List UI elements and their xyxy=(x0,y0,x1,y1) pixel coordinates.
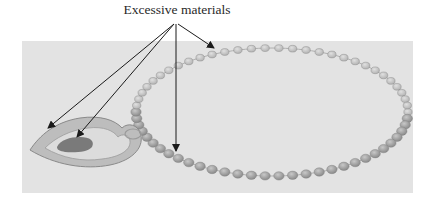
bead xyxy=(246,171,256,179)
bead xyxy=(339,162,349,170)
bead xyxy=(401,96,409,103)
bead xyxy=(260,172,270,180)
bead xyxy=(174,62,182,69)
bead xyxy=(398,89,406,96)
bead xyxy=(149,78,157,85)
bead xyxy=(393,83,401,90)
annotation-label: Excessive materials xyxy=(112,2,242,18)
bead xyxy=(370,150,380,158)
bead xyxy=(184,158,194,166)
bead xyxy=(138,89,146,96)
bead xyxy=(361,154,371,162)
bead xyxy=(221,49,229,56)
arrow-necklace-back xyxy=(178,24,214,48)
figure: Excessive materials xyxy=(0,0,435,204)
bead xyxy=(185,58,193,65)
bead xyxy=(302,47,310,54)
bead xyxy=(315,49,323,56)
bead xyxy=(328,51,336,58)
bead xyxy=(327,165,337,173)
bead xyxy=(165,67,173,74)
bead xyxy=(220,168,230,176)
bead xyxy=(173,154,183,162)
bead xyxy=(301,170,311,178)
bead xyxy=(156,72,164,79)
arrow-pendant-edge xyxy=(48,24,174,128)
bead xyxy=(164,150,174,158)
bead xyxy=(261,45,269,52)
bead xyxy=(379,72,387,79)
bead xyxy=(275,45,283,52)
bead xyxy=(207,165,217,173)
bead xyxy=(274,172,284,180)
bead xyxy=(133,102,141,109)
bead xyxy=(234,47,242,54)
bead xyxy=(350,158,360,166)
bead xyxy=(387,78,395,85)
bead xyxy=(196,54,204,61)
bead xyxy=(314,168,324,176)
bead xyxy=(143,83,151,90)
bead xyxy=(233,170,243,178)
bead-ring xyxy=(131,45,413,180)
heart-pendant xyxy=(30,117,141,167)
necklace-illustration xyxy=(0,0,435,204)
bead xyxy=(378,144,388,152)
bead xyxy=(135,96,143,103)
bead xyxy=(247,45,255,52)
bead xyxy=(208,51,216,58)
bead xyxy=(362,62,370,69)
bead xyxy=(351,58,359,65)
arrow-pendant-inner xyxy=(77,24,174,137)
bead xyxy=(288,45,296,52)
bead xyxy=(287,171,297,179)
bead xyxy=(403,102,411,109)
bead xyxy=(340,54,348,61)
bead xyxy=(371,67,379,74)
bead xyxy=(195,162,205,170)
